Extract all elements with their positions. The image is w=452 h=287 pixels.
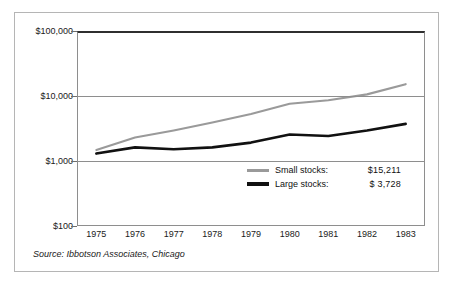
y-tick bbox=[71, 226, 77, 227]
x-tick-label: 1983 bbox=[396, 230, 416, 239]
legend-label-small-stocks: Small stocks: bbox=[275, 165, 349, 175]
plot-area bbox=[77, 31, 425, 226]
x-tick-label: 1976 bbox=[125, 230, 145, 239]
legend-line-icon-large-stocks bbox=[247, 182, 269, 186]
x-tick-label: 1980 bbox=[280, 230, 300, 239]
series-line-small-stocks bbox=[96, 84, 405, 150]
x-axis-labels: 197519761977197819791980198119821983 bbox=[77, 230, 425, 244]
y-tick bbox=[71, 161, 77, 162]
legend-label-large-stocks: Large stocks: bbox=[275, 179, 349, 189]
x-tick-label: 1982 bbox=[357, 230, 377, 239]
gridline bbox=[77, 161, 425, 162]
gridline bbox=[77, 96, 425, 97]
y-tick-label: $100 bbox=[15, 222, 73, 231]
y-tick bbox=[71, 31, 77, 32]
x-tick-label: 1977 bbox=[164, 230, 184, 239]
x-tick-label: 1979 bbox=[241, 230, 261, 239]
series-lines bbox=[77, 31, 425, 226]
legend-item-small-stocks: Small stocks: $15,211 bbox=[247, 163, 401, 177]
source-note: Source: Ibbotson Associates, Chicago bbox=[33, 249, 185, 259]
legend-item-large-stocks: Large stocks: $ 3,728 bbox=[247, 177, 401, 191]
y-axis-labels: $100,000$10,000$1,000$100 bbox=[15, 31, 73, 226]
y-tick-label: $1,000 bbox=[15, 157, 73, 166]
chart-legend: Small stocks: $15,211 Large stocks: $ 3,… bbox=[247, 163, 401, 191]
legend-value-large-stocks: $ 3,728 bbox=[349, 179, 401, 189]
legend-value-small-stocks: $15,211 bbox=[349, 165, 401, 175]
x-tick-label: 1975 bbox=[86, 230, 106, 239]
legend-line-icon-small-stocks bbox=[247, 169, 269, 172]
y-tick-label: $100,000 bbox=[15, 27, 73, 36]
y-tick-label: $10,000 bbox=[15, 92, 73, 101]
series-line-large-stocks bbox=[96, 124, 405, 154]
x-tick-label: 1981 bbox=[318, 230, 338, 239]
x-tick-label: 1978 bbox=[202, 230, 222, 239]
chart-figure: $100,000$10,000$1,000$100 19751976197719… bbox=[14, 12, 439, 272]
y-tick bbox=[71, 96, 77, 97]
